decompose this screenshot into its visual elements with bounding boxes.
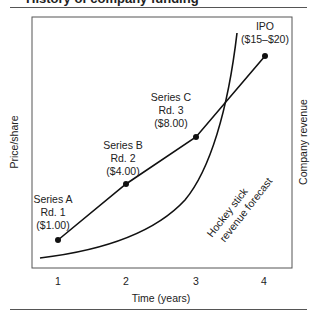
svg-text:2: 2	[123, 275, 129, 287]
svg-text:4: 4	[261, 275, 267, 287]
svg-text:Series B: Series B	[103, 139, 143, 151]
svg-text:3: 3	[193, 275, 199, 287]
funding-chart: Series A Rd. 1 ($1.00) Series B Rd. 2 ($…	[0, 0, 317, 316]
svg-text:Rd. 3: Rd. 3	[158, 104, 183, 116]
y-axis-left-label: Price/share	[8, 115, 20, 168]
svg-text:($4.00): ($4.00)	[106, 165, 139, 177]
series-b-point	[123, 181, 129, 187]
svg-text:($8.00): ($8.00)	[154, 117, 187, 129]
svg-text:($1.00): ($1.00)	[36, 219, 69, 231]
plot-frame	[32, 17, 292, 268]
series-c-label: Series C Rd. 3 ($8.00)	[151, 91, 192, 129]
svg-text:Rd. 1: Rd. 1	[40, 206, 65, 218]
series-b-label: Series B Rd. 2 ($4.00)	[103, 139, 143, 177]
svg-text:Series C: Series C	[151, 91, 192, 103]
ipo-label: IPO ($15–$20)	[241, 20, 289, 45]
x-axis-label: Time (years)	[132, 292, 191, 304]
ipo-point	[262, 53, 268, 59]
svg-text:Series A: Series A	[33, 193, 72, 205]
y-axis-right-label: Company revenue	[297, 99, 309, 185]
series-a-point	[55, 237, 61, 243]
series-c-point	[193, 134, 199, 140]
svg-text:($15–$20): ($15–$20)	[241, 33, 289, 45]
svg-text:Rd. 2: Rd. 2	[110, 152, 135, 164]
series-a-label: Series A Rd. 1 ($1.00)	[33, 193, 72, 231]
bottom-rule	[10, 309, 307, 310]
svg-text:IPO: IPO	[256, 20, 274, 32]
x-axis-ticks: 1 2 3 4	[55, 275, 267, 287]
hockey-stick-annotation: Hockey stick revenue forecast	[204, 167, 274, 247]
svg-text:1: 1	[55, 275, 61, 287]
